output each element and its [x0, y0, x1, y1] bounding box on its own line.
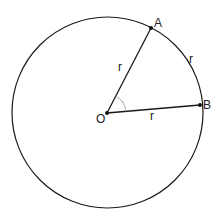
radius-oa	[107, 28, 151, 113]
point-a	[149, 26, 153, 30]
label-b: B	[203, 99, 211, 111]
label-r-ob: r	[150, 110, 154, 122]
label-o: O	[96, 113, 105, 125]
point-o	[105, 111, 109, 115]
angle-arc-mark	[116, 96, 126, 111]
label-r-oa: r	[118, 61, 122, 73]
label-a: A	[154, 17, 162, 29]
label-r-arc: r	[189, 53, 193, 65]
circle-diagram	[0, 0, 221, 216]
point-b	[198, 103, 202, 107]
